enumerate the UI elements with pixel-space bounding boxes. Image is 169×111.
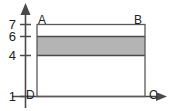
y-axis-arrow-icon: [21, 3, 31, 15]
y-tick-label-6: 6: [2, 30, 16, 43]
vertex-label-c: C: [149, 89, 158, 101]
vertex-label-a: A: [38, 14, 46, 26]
rectangle-abcd: [37, 25, 145, 97]
y-tick-label-4: 4: [2, 49, 16, 62]
vertex-label-b: B: [134, 14, 142, 26]
geometry-figure: 7 6 4 1 A B C D: [0, 0, 169, 111]
y-tick-label-1: 1: [2, 90, 16, 103]
vertex-label-d: D: [26, 89, 35, 101]
shaded-band: [37, 37, 145, 56]
